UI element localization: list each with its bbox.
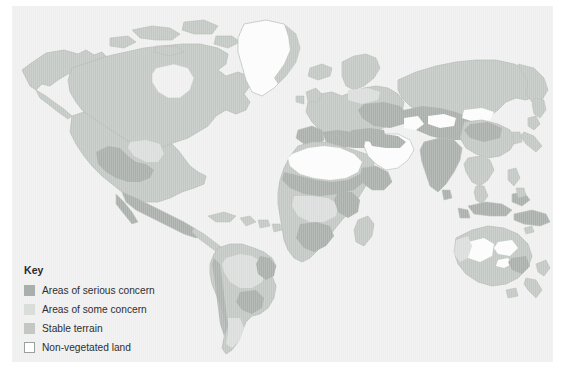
- legend-item-stable-terrain[interactable]: Stable terrain: [24, 319, 204, 338]
- legend-title: Key: [24, 264, 204, 276]
- map-panel: Key Areas of serious concern Areas of so…: [12, 6, 553, 362]
- legend-item-non-vegetated[interactable]: Non-vegetated land: [24, 338, 204, 357]
- legend-item-serious-concern[interactable]: Areas of serious concern: [24, 281, 204, 300]
- legend-label-non-vegetated: Non-vegetated land: [42, 342, 131, 354]
- legend-label-some-concern: Areas of some concern: [42, 304, 147, 316]
- world-map-figure: Key Areas of serious concern Areas of so…: [0, 0, 567, 375]
- swatch-non-vegetated: [24, 342, 35, 353]
- swatch-some-concern: [24, 304, 35, 315]
- swatch-stable-terrain: [24, 323, 35, 334]
- swatch-serious-concern: [24, 285, 35, 296]
- legend-label-serious-concern: Areas of serious concern: [42, 285, 155, 297]
- legend-label-stable-terrain: Stable terrain: [42, 323, 103, 335]
- map-legend: Key Areas of serious concern Areas of so…: [14, 264, 204, 357]
- legend-item-some-concern[interactable]: Areas of some concern: [24, 300, 204, 319]
